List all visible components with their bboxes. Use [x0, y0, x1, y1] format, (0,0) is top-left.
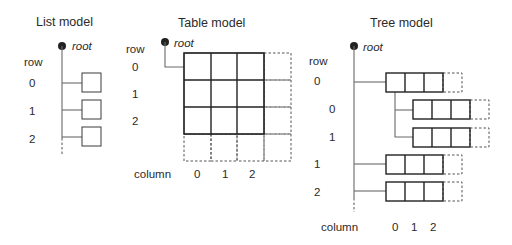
- model-diagram: List model root row 0 1 2 Table model ro…: [0, 0, 512, 245]
- tree-column-label-0: 0: [392, 221, 398, 233]
- tree-model: Tree model root row 0 0 1 1 2: [309, 16, 489, 233]
- tree-column-label-2: 2: [430, 221, 436, 233]
- table-column-label-2: 2: [249, 168, 255, 180]
- tree-column-axis-label: column: [321, 221, 358, 233]
- tree-child-row-label-0: 0: [329, 103, 335, 115]
- table-column-label-0: 0: [194, 168, 200, 180]
- tree-child-row-label-1: 1: [329, 131, 335, 143]
- tree-model-title: Tree model: [370, 16, 433, 30]
- tree-child-row-1: [413, 128, 489, 147]
- list-item-2: [82, 127, 101, 146]
- list-row-label-0: 0: [29, 77, 35, 89]
- table-root-label: root: [174, 37, 195, 49]
- list-row-label-1: 1: [29, 105, 35, 117]
- tree-column-label-1: 1: [411, 221, 417, 233]
- list-model-title: List model: [36, 15, 93, 29]
- list-root-label: root: [72, 40, 93, 52]
- tree-child-row-0: [413, 100, 489, 119]
- table-cells: [184, 53, 264, 134]
- table-row-label-2: 2: [132, 115, 138, 127]
- list-item-1: [82, 100, 101, 119]
- tree-row-2: [386, 182, 462, 201]
- list-row-axis-label: row: [24, 56, 43, 68]
- table-column-axis-label: column: [134, 168, 171, 180]
- tree-row-1: [386, 155, 462, 174]
- tree-row-label-2: 2: [314, 186, 320, 198]
- table-column-label-1: 1: [222, 168, 228, 180]
- table-row-label-1: 1: [132, 88, 138, 100]
- list-row-label-2: 2: [29, 133, 35, 145]
- table-model-title: Table model: [178, 16, 245, 30]
- tree-row-axis-label: row: [309, 55, 328, 67]
- tree-row-label-0: 0: [314, 75, 320, 87]
- table-row-axis-label: row: [126, 43, 145, 55]
- list-model: List model root row 0 1 2: [24, 15, 101, 156]
- table-model: Table model root row 0 1 2 column 0 1 2: [126, 16, 291, 180]
- list-item-0: [82, 73, 101, 92]
- table-row-label-0: 0: [132, 61, 138, 73]
- tree-row-label-1: 1: [314, 158, 320, 170]
- tree-row-0: [386, 73, 462, 92]
- tree-root-label: root: [363, 41, 384, 53]
